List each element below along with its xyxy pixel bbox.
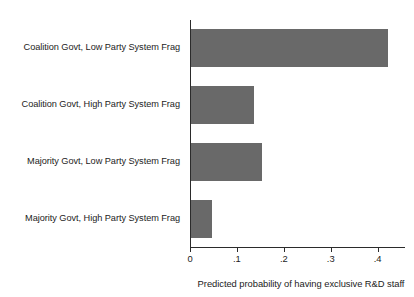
bar-chart: Coalition Govt, Low Party System Frag Co… (0, 0, 414, 297)
x-tick-label-3: .3 (327, 253, 335, 264)
bar-2 (191, 143, 262, 181)
x-axis-title: Predicted probability of having exclusiv… (190, 278, 412, 289)
plot-area (190, 20, 402, 247)
x-tick-label-4: .4 (374, 253, 382, 264)
category-label-2: Majority Govt, Low Party System Frag (0, 156, 180, 167)
x-tick-mark-0 (190, 248, 191, 252)
x-tick-label-2: .2 (280, 253, 288, 264)
x-tick-label-1: .1 (233, 253, 241, 264)
bar-1 (191, 86, 254, 124)
category-label-1: Coalition Govt, High Party System Frag (0, 99, 180, 110)
bar-0 (191, 29, 388, 67)
x-axis-ticks: 0 .1 .2 .3 .4 (190, 248, 405, 270)
x-tick-mark-3 (331, 248, 332, 252)
x-tick-label-0: 0 (187, 253, 192, 264)
x-tick-mark-4 (378, 248, 379, 252)
bar-3 (191, 200, 212, 238)
x-tick-mark-1 (237, 248, 238, 252)
category-label-0: Coalition Govt, Low Party System Frag (0, 42, 180, 53)
x-tick-mark-2 (284, 248, 285, 252)
category-label-3: Majority Govt, High Party System Frag (0, 213, 180, 224)
category-axis-labels: Coalition Govt, Low Party System Frag Co… (0, 20, 186, 247)
